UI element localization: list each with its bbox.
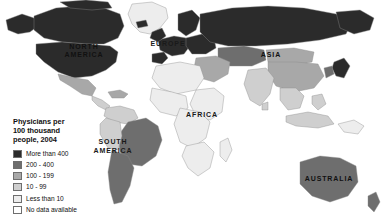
label-africa: AFRICA: [186, 111, 218, 118]
label-europe: EUROPE: [151, 40, 186, 47]
legend-label-no-data: No data available: [26, 206, 77, 214]
legend-item-more-than-400: More than 400: [13, 149, 95, 160]
legend-label-200-400: 200 - 400: [26, 161, 54, 169]
map-legend: Physicians per 100 thousand people, 2004…: [13, 117, 95, 216]
legend-label-10-99: 10 - 99: [26, 183, 47, 191]
legend-swatch-more-than-400: [13, 150, 22, 158]
legend-item-200-400: 200 - 400: [13, 160, 95, 171]
label-south-america-line2: AMERICA: [94, 147, 133, 154]
legend-label-100-199: 100 - 199: [26, 172, 54, 180]
legend-swatch-10-99: [13, 183, 22, 191]
label-south-america-line1: SOUTH: [99, 138, 128, 145]
legend-swatch-200-400: [13, 161, 22, 169]
legend-item-less-than-10: Less than 10: [13, 193, 95, 204]
world-map-figure: NORTH AMERICA SOUTH AMERICA EUROPE AFRIC…: [0, 0, 387, 223]
label-australia: AUSTRALIA: [305, 175, 354, 182]
label-north-america-line2: AMERICA: [65, 51, 104, 58]
legend-swatch-no-data: [13, 206, 22, 214]
legend-item-no-data: No data available: [13, 205, 95, 216]
legend-title: Physicians per 100 thousand people, 2004: [13, 117, 95, 145]
legend-label-less-than-10: Less than 10: [26, 195, 64, 203]
label-north-america-line1: NORTH: [69, 43, 98, 50]
label-asia: ASIA: [261, 51, 281, 58]
legend-swatch-less-than-10: [13, 195, 22, 203]
legend-item-100-199: 100 - 199: [13, 171, 95, 182]
legend-label-more-than-400: More than 400: [26, 150, 69, 158]
legend-swatch-100-199: [13, 172, 22, 180]
region-canada: [34, 6, 124, 44]
legend-item-10-99: 10 - 99: [13, 182, 95, 193]
